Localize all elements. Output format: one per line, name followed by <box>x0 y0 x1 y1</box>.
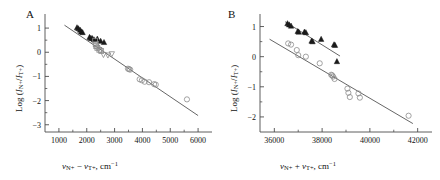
y-tick-label: −2 <box>247 113 256 122</box>
y-tick-label: 1 <box>252 23 256 32</box>
ylabel-sub2-b: T+ <box>232 68 239 76</box>
panel-a-ylabel: Log (IN+/IT+) <box>14 65 24 112</box>
x-tick-label: 40000 <box>360 136 380 145</box>
data-point-open-circles <box>303 54 308 59</box>
ylabel-sub1-b: N+ <box>232 81 239 89</box>
fit-line <box>270 39 413 123</box>
y-tick-label: −2 <box>32 97 41 106</box>
x-tick-label: 36000 <box>264 136 284 145</box>
x-tick-label: 38000 <box>312 136 332 145</box>
xlabel-exp-a: −1 <box>111 160 118 167</box>
xlabel-op-a: − <box>74 161 84 171</box>
panel-a-plot: 10002000300040005000600010−1−2−3 <box>0 0 220 180</box>
x-tick-label: 4000 <box>134 136 150 145</box>
xlabel-op-b: + <box>292 161 302 171</box>
ylabel-sub1-a: N+ <box>17 81 24 89</box>
ylabel-i1-b: I <box>229 89 239 92</box>
ylabel-slash-b: / <box>229 78 239 81</box>
ylabel-slash-a: / <box>14 78 24 81</box>
ylabel-i1-a: I <box>14 89 24 92</box>
xlabel-units-b: , cm <box>314 161 330 171</box>
x-tick-label: 5000 <box>162 136 178 145</box>
ylabel-i2-b: I <box>229 75 239 78</box>
ylabel-log-a: Log ( <box>14 92 24 112</box>
x-tick-label: 1000 <box>51 136 67 145</box>
x-tick-label: 2000 <box>79 136 95 145</box>
xlabel-sub2-a: T+ <box>88 164 96 171</box>
panel-b-ylabel: Log (IN+/IT+) <box>229 65 239 112</box>
x-tick-label: 42000 <box>408 136 428 145</box>
y-tick-label: −1 <box>247 83 256 92</box>
xlabel-sub2-b: T+ <box>306 164 314 171</box>
ylabel-i2-a: I <box>14 75 24 78</box>
panel-a-xlabel: vN+ − vT+, cm−1 <box>62 160 118 171</box>
figure-root: A 10002000300040005000600010−1−2−3 Log (… <box>0 0 440 180</box>
y-tick-label: −1 <box>32 72 41 81</box>
panel-b: B 3600038000400004200010−1−2 Log (IN+/IT… <box>220 0 440 180</box>
data-point-filled-triangles <box>334 59 339 64</box>
data-point-open-circles <box>184 97 189 102</box>
y-tick-label: 0 <box>37 48 41 57</box>
x-tick-label: 6000 <box>190 136 206 145</box>
panel-b-xlabel: vN+ + vT+, cm−1 <box>280 160 336 171</box>
data-point-filled-triangles <box>318 36 323 41</box>
x-tick-label: 3000 <box>107 136 123 145</box>
ylabel-log-b: Log ( <box>229 92 239 112</box>
ylabel-sub2-a: T+ <box>17 68 24 76</box>
y-tick-label: 1 <box>37 24 41 33</box>
ylabel-close-a: ) <box>14 65 24 68</box>
xlabel-exp-b: −1 <box>329 160 336 167</box>
ylabel-close-b: ) <box>229 65 239 68</box>
y-tick-label: −3 <box>32 121 41 130</box>
panel-b-plot: 3600038000400004200010−1−2 <box>220 0 440 180</box>
data-point-open-circles <box>294 47 299 52</box>
data-point-open-circles <box>317 61 322 66</box>
data-point-open-circles <box>406 113 411 118</box>
panel-a: A 10002000300040005000600010−1−2−3 Log (… <box>0 0 220 180</box>
y-tick-label: 0 <box>252 53 256 62</box>
xlabel-units-a: , cm <box>96 161 112 171</box>
